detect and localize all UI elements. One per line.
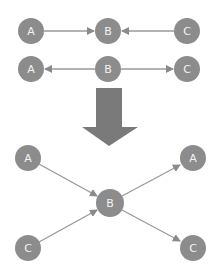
- node-b-row1: B: [95, 18, 121, 44]
- svg-text:C: C: [183, 63, 191, 76]
- svg-text:C: C: [189, 242, 197, 255]
- edge-b-to-a-right: [122, 165, 180, 196]
- svg-text:A: A: [27, 25, 35, 38]
- node-c-right-bottom: C: [180, 235, 206, 261]
- svg-text:B: B: [104, 63, 112, 76]
- svg-text:B: B: [104, 25, 112, 38]
- down-arrow-icon: [82, 88, 138, 146]
- svg-text:A: A: [189, 152, 197, 165]
- node-b-bottom: B: [96, 189, 124, 217]
- svg-text:C: C: [183, 25, 191, 38]
- edge-b-to-c-right: [122, 210, 180, 241]
- edge-c-left-to-b: [39, 210, 97, 242]
- node-a-right-bottom: A: [180, 145, 206, 171]
- svg-text:C: C: [24, 242, 32, 255]
- node-c-row2: C: [174, 56, 200, 82]
- node-c-left-bottom: C: [15, 235, 41, 261]
- svg-text:B: B: [106, 197, 114, 210]
- edge-a-left-to-b: [39, 164, 97, 196]
- svg-text:A: A: [24, 152, 32, 165]
- node-c-row1: C: [174, 18, 200, 44]
- merge-diagram: A B C A B C A C B A: [0, 0, 219, 278]
- node-a-row2: A: [18, 56, 44, 82]
- svg-text:A: A: [27, 63, 35, 76]
- node-a-row1: A: [18, 18, 44, 44]
- node-b-row2: B: [95, 56, 121, 82]
- node-a-left-bottom: A: [15, 145, 41, 171]
